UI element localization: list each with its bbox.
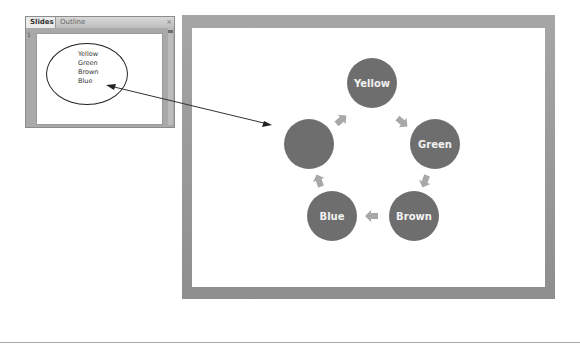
arrowhead-icon: [106, 84, 116, 90]
double-arrow-connector: [0, 0, 580, 349]
arrowhead-icon: [262, 121, 272, 127]
bottom-divider: [0, 342, 580, 343]
